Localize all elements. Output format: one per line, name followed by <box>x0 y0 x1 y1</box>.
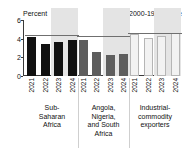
bar <box>68 40 77 76</box>
year-label-group: 2021202220232024 <box>130 78 180 104</box>
bar <box>92 52 101 76</box>
group-separator <box>78 78 79 148</box>
x-axis-year-label: 2021 <box>79 78 88 92</box>
bar <box>79 40 88 76</box>
x-axis-year-label: 2024 <box>171 78 180 92</box>
average-line <box>25 35 79 36</box>
group-caption: Sub-SaharanAfrica <box>23 104 81 130</box>
bar-group <box>130 20 180 76</box>
x-axis-year-label: 2022 <box>41 78 50 92</box>
year-label-group: 2021202220232024 <box>79 78 129 104</box>
x-axis-year-label: 2022 <box>92 78 101 92</box>
group-caption-line: Saharan <box>23 113 81 122</box>
bar <box>41 44 50 76</box>
y-axis-tick-mark <box>21 76 23 77</box>
plot-area: 0246 <box>23 20 180 76</box>
x-axis-year-label: 2021 <box>27 78 36 92</box>
group-caption-line: Industrial- <box>126 104 184 113</box>
group-caption-line: Africa <box>75 130 133 139</box>
group-caption-line: commodity <box>126 113 184 122</box>
bar-group <box>79 20 129 76</box>
x-axis-year-label: 2023 <box>54 78 63 92</box>
bar <box>144 38 153 76</box>
bar <box>119 54 128 76</box>
group-caption-line: exporters <box>126 121 184 130</box>
y-axis-tick-mark <box>21 39 23 40</box>
bar <box>27 37 36 76</box>
group-caption-line: Africa <box>23 121 81 130</box>
group-caption-line: Nigeria, <box>75 113 133 122</box>
group-separator <box>129 78 130 148</box>
y-axis-unit-label: Percent <box>23 10 47 18</box>
year-label-group: 2021202220232024 <box>27 78 77 104</box>
bar <box>106 55 115 76</box>
y-axis-tick-mark <box>21 20 23 21</box>
group-caption-line: Angola, <box>75 104 133 113</box>
x-axis-year-label: 2023 <box>106 78 115 92</box>
average-line <box>77 36 131 37</box>
bar-chart: Percent 2000-19 average 0246 20212022202… <box>0 0 187 150</box>
bar <box>157 36 166 76</box>
bar-group <box>27 20 77 76</box>
group-captions: Sub-SaharanAfricaAngola,Nigeria,and Sout… <box>23 104 180 148</box>
x-axis-year-label: 2022 <box>144 78 153 92</box>
group-caption: Industrial-commodityexporters <box>126 104 184 130</box>
x-axis-year-label: 2023 <box>157 78 166 92</box>
group-caption: Angola,Nigeria,and SouthAfrica <box>75 104 133 138</box>
bars-row <box>130 20 180 76</box>
y-axis-tick-mark <box>21 57 23 58</box>
group-caption-line: and South <box>75 121 133 130</box>
group-caption-line: Sub- <box>23 104 81 113</box>
bar <box>171 33 180 76</box>
x-axis-year-label: 2024 <box>68 78 77 92</box>
bar <box>130 34 139 76</box>
x-axis-year-labels: 2021202220232024202120222023202420212022… <box>23 78 180 104</box>
average-line <box>128 33 182 34</box>
bars-row <box>79 20 129 76</box>
x-axis-year-label: 2024 <box>119 78 128 92</box>
y-axis-line <box>23 20 24 76</box>
bars-row <box>27 20 77 76</box>
bar <box>54 42 63 76</box>
x-axis-year-label: 2021 <box>130 78 139 92</box>
